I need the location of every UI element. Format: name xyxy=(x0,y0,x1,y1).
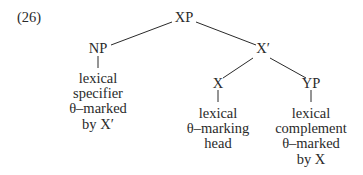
leaf-line: lexical xyxy=(187,106,250,121)
leaf-yp: lexical complement θ–marked by X xyxy=(275,106,347,167)
edge-xbar-yp xyxy=(270,58,306,78)
leaf-line: θ–marked xyxy=(69,101,127,116)
leaf-line: θ–marked xyxy=(275,136,347,151)
edge-xbar-x xyxy=(223,58,253,78)
node-xp: XP xyxy=(175,10,194,25)
node-x: X xyxy=(213,76,223,91)
leaf-line: by X′ xyxy=(69,117,127,132)
leaf-line: lexical xyxy=(275,106,347,121)
leaf-line: θ–marking xyxy=(187,121,250,136)
node-xbar: X′ xyxy=(256,41,270,56)
leaf-line: lexical xyxy=(69,71,127,86)
leaf-x: lexical θ–marking head xyxy=(187,106,250,152)
edge-xp-xbar xyxy=(196,22,256,45)
edge-xp-np xyxy=(111,22,172,45)
leaf-line: specifier xyxy=(69,86,127,101)
leaf-line: head xyxy=(187,136,250,151)
leaf-np: lexical specifier θ–marked by X′ xyxy=(69,71,127,132)
leaf-line: complement xyxy=(275,121,347,136)
node-yp: YP xyxy=(302,76,321,91)
leaf-line: by X xyxy=(275,152,347,167)
node-np: NP xyxy=(89,41,108,56)
